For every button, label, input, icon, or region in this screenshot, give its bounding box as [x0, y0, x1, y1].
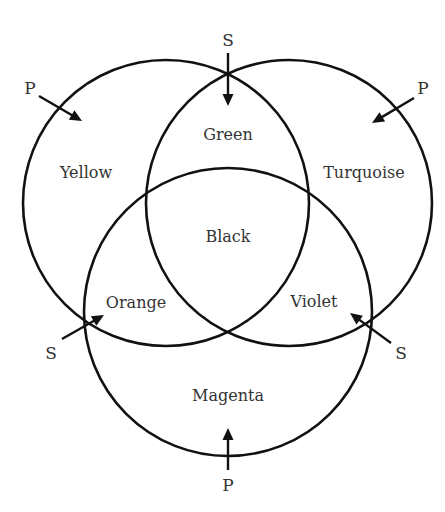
marker-label: P — [24, 78, 35, 98]
region-label-violet: Violet — [289, 292, 338, 311]
marker-label: S — [395, 343, 407, 363]
region-label-green: Green — [203, 125, 253, 144]
circle-right — [146, 60, 432, 346]
marker-label: S — [222, 30, 234, 50]
arrows-group: PPSSSP — [24, 30, 428, 495]
marker-s-bottom-right: S — [350, 313, 407, 363]
arrow-shaft — [62, 320, 95, 339]
color-venn-diagram: PPSSSP YellowTurquoiseMagentaGreenOrange… — [0, 0, 445, 512]
arrow-shaft — [358, 319, 391, 343]
circle-bottom — [84, 168, 372, 456]
marker-s-bottom-left: S — [45, 315, 104, 363]
region-label-orange: Orange — [106, 293, 166, 312]
arrow-shaft — [381, 98, 414, 118]
arrow-head-icon — [223, 94, 234, 106]
region-label-black: Black — [205, 227, 250, 246]
arrow-head-icon — [223, 428, 234, 440]
marker-p-bottom: P — [222, 428, 233, 495]
marker-label: S — [45, 343, 57, 363]
marker-s-top: S — [222, 30, 234, 106]
region-label-yellow: Yellow — [59, 163, 113, 182]
marker-p-top-right: P — [372, 78, 429, 123]
arrow-head-icon — [350, 313, 363, 325]
marker-label: P — [222, 475, 233, 495]
marker-label: P — [417, 78, 428, 98]
region-label-turquoise: Turquoise — [323, 163, 405, 182]
region-label-magenta: Magenta — [192, 386, 264, 405]
